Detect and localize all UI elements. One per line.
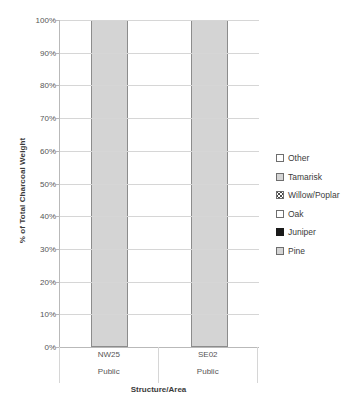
y-axis-tickmark xyxy=(56,20,60,21)
x-axis-category-name: SE02 xyxy=(159,350,258,359)
gridline xyxy=(60,184,259,185)
gridline xyxy=(60,314,259,315)
y-axis-tick-label: 0% xyxy=(12,343,56,352)
y-axis-tick-label: 20% xyxy=(12,277,56,286)
legend-item-willow-poplar[interactable]: Willow/Poplar xyxy=(276,186,361,205)
gridline xyxy=(60,20,259,21)
y-axis-tickmark xyxy=(56,314,60,315)
legend-swatch-icon xyxy=(276,191,284,199)
gridline xyxy=(60,249,259,250)
y-axis-tick-label: 50% xyxy=(12,179,56,188)
x-axis-category-cell: NW25Public xyxy=(59,347,159,383)
x-axis-category-group: Public xyxy=(60,367,158,376)
legend-item-pine[interactable]: Pine xyxy=(276,242,361,261)
y-axis-tickmark xyxy=(56,216,60,217)
legend-item-tamarisk[interactable]: Tamarisk xyxy=(276,168,361,187)
y-axis-tick-label: 90% xyxy=(12,48,56,57)
chart-legend: OtherTamariskWillow/PoplarOakJuniperPine xyxy=(276,149,361,260)
legend-swatch-icon xyxy=(276,210,284,218)
legend-label: Tamarisk xyxy=(288,172,322,182)
gridline xyxy=(60,216,259,217)
legend-item-other[interactable]: Other xyxy=(276,149,361,168)
gridline xyxy=(60,282,259,283)
y-axis-tick-label: 70% xyxy=(12,114,56,123)
y-axis-tickmark xyxy=(56,53,60,54)
gridline xyxy=(60,85,259,86)
legend-swatch-icon xyxy=(276,173,284,181)
y-axis-tick-label: 80% xyxy=(12,81,56,90)
x-axis-category-labels: NW25PublicSE02Public xyxy=(59,347,258,383)
y-axis-tickmark xyxy=(56,85,60,86)
y-axis-tickmark xyxy=(56,184,60,185)
legend-swatch-icon xyxy=(276,228,284,236)
y-axis-tick-labels: 0%10%20%30%40%50%60%70%80%90%100% xyxy=(12,20,56,347)
charcoal-weight-bar-chart: % of Total Charcoal Weight 0%10%20%30%40… xyxy=(0,0,361,417)
legend-swatch-icon xyxy=(276,247,284,255)
legend-swatch-icon xyxy=(276,154,284,162)
y-axis-tick-label: 40% xyxy=(12,212,56,221)
legend-item-juniper[interactable]: Juniper xyxy=(276,223,361,242)
y-axis-tick-label: 10% xyxy=(12,310,56,319)
x-axis-title: Structure/Area xyxy=(59,385,258,394)
y-axis-tickmark xyxy=(56,282,60,283)
plot-area xyxy=(59,20,258,347)
y-axis-tickmark xyxy=(56,151,60,152)
gridline xyxy=(60,118,259,119)
legend-label: Oak xyxy=(288,209,304,219)
y-axis-tick-label: 30% xyxy=(12,244,56,253)
gridline xyxy=(60,151,259,152)
legend-label: Pine xyxy=(288,246,305,256)
x-axis-category-name: NW25 xyxy=(60,350,158,359)
y-axis-tick-label: 60% xyxy=(12,146,56,155)
y-axis-tickmark xyxy=(56,118,60,119)
legend-label: Willow/Poplar xyxy=(288,190,340,200)
x-axis-category-cell: SE02Public xyxy=(159,347,259,383)
gridline xyxy=(60,53,259,54)
legend-item-oak[interactable]: Oak xyxy=(276,205,361,224)
legend-label: Other xyxy=(288,153,309,163)
legend-label: Juniper xyxy=(288,227,316,237)
x-axis-category-group: Public xyxy=(159,367,258,376)
y-axis-tick-label: 100% xyxy=(12,16,56,25)
y-axis-tickmark xyxy=(56,249,60,250)
